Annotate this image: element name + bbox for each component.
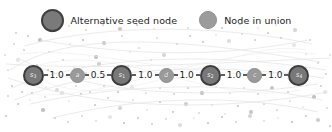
graph-node-label: d (164, 72, 168, 79)
legend: Alternative seed node Node in union (0, 6, 332, 34)
node-chain: s31.0a0.5s11.0d1.0s21.0c1.0s4 (0, 60, 332, 90)
edge-weight-label: 1.0 (138, 71, 152, 80)
graph-edge-d-s2: 1.0 (174, 71, 200, 80)
edge-line-segment (44, 74, 48, 75)
graph-node-s1[interactable]: s1 (111, 65, 132, 86)
edge-line-segment (132, 74, 136, 75)
seed-node-marker-icon (41, 9, 64, 32)
edge-weight-label: 0.5 (91, 71, 105, 80)
edge-weight-label: 1.0 (268, 71, 282, 80)
graph-node-s3[interactable]: s3 (23, 65, 44, 86)
graph-node-label: a (75, 72, 79, 79)
graph-node-label: c (253, 72, 256, 79)
legend-entry-node-in-union: Node in union (199, 11, 291, 29)
edge-line-segment (262, 74, 266, 75)
legend-entry-alternative-seed-node: Alternative seed node (41, 9, 178, 32)
graph-node-s2[interactable]: s2 (200, 65, 221, 86)
union-node-marker-icon (199, 11, 217, 29)
graph-edge-a-s1: 0.5 (85, 71, 111, 80)
graph-node-c[interactable]: c (247, 68, 262, 83)
graph-node-s4[interactable]: s4 (288, 65, 309, 86)
graph-edge-c-s4: 1.0 (262, 71, 288, 80)
edge-line-segment (85, 74, 89, 75)
edge-weight-label: 1.0 (50, 71, 64, 80)
graph-node-label: s3 (30, 72, 36, 79)
graph-node-d[interactable]: d (159, 68, 174, 83)
edge-weight-label: 1.0 (180, 71, 194, 80)
graph-edge-s3-a: 1.0 (44, 71, 70, 80)
legend-label-alternative-seed-node: Alternative seed node (71, 15, 178, 26)
edge-line-segment (221, 74, 225, 75)
graph-node-label: s4 (296, 72, 302, 79)
graph-edge-s1-d: 1.0 (132, 71, 158, 80)
graph-figure: Alternative seed node Node in union s31.… (0, 0, 332, 132)
edge-line-segment (174, 74, 178, 75)
graph-node-label: s1 (118, 72, 124, 79)
graph-node-label: s2 (207, 72, 213, 79)
graph-edge-s2-c: 1.0 (221, 71, 247, 80)
edge-line-segment (155, 74, 159, 75)
edge-weight-label: 1.0 (227, 71, 241, 80)
graph-node-a[interactable]: a (70, 68, 85, 83)
legend-label-node-in-union: Node in union (224, 15, 291, 26)
